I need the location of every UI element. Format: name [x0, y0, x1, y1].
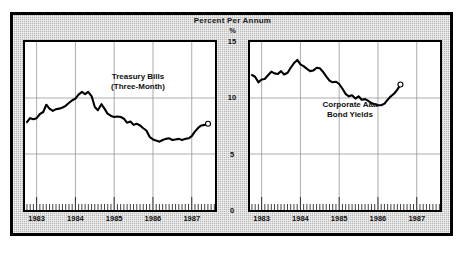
series-label-corporate-aaa: Corporate Aaa Bond Yields — [290, 100, 410, 119]
figure-root: Percent Per Annum % 15 10 5 0 Treasury B… — [0, 0, 465, 253]
x-axis-labels-left: 19831984198519861987 — [23, 214, 217, 228]
plot-area-right — [250, 42, 440, 210]
series-label-treasury-bills: Treasury Bills (Three-Month) — [83, 72, 193, 91]
chart-svg-left — [25, 42, 215, 210]
x-tick-label: 1983 — [253, 214, 270, 223]
plot-corporate-aaa: Corporate Aaa Bond Yields — [248, 40, 442, 212]
x-tick-label: 1986 — [145, 214, 162, 223]
x-tick-label: 1986 — [370, 214, 387, 223]
x-tick-label: 1984 — [292, 214, 309, 223]
x-tick-label: 1983 — [28, 214, 45, 223]
chart-svg-right — [250, 42, 440, 210]
x-tick-label: 1987 — [408, 214, 425, 223]
x-tick-label: 1984 — [67, 214, 84, 223]
x-tick-label: 1985 — [106, 214, 123, 223]
y-tick-15: 15 — [221, 38, 243, 46]
x-axis-labels-right: 19831984198519861987 — [248, 214, 442, 228]
series-label-line1: Corporate Aaa — [323, 100, 378, 109]
series-label-line1: Treasury Bills — [112, 72, 164, 81]
x-tick-label: 1985 — [331, 214, 348, 223]
plot-treasury-bills: Treasury Bills (Three-Month) — [23, 40, 217, 212]
series-label-line2: (Three-Month) — [111, 82, 165, 91]
y-tick-5: 5 — [221, 151, 243, 159]
series-label-line2: Bond Yields — [327, 110, 373, 119]
y-tick-0: 0 — [221, 207, 243, 215]
x-tick-label: 1987 — [183, 214, 200, 223]
y-axis-unit-label: % — [0, 26, 465, 35]
y-tick-10: 10 — [221, 94, 243, 102]
page-title: Percent Per Annum — [0, 16, 465, 25]
plot-area-left — [25, 42, 215, 210]
